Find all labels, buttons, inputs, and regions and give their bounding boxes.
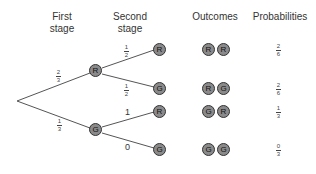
node-label: R [93,67,99,75]
denominator: 3 [58,126,61,132]
outcome-2-b: G [217,82,230,95]
header-outcomes: Outcomes [190,11,240,23]
probability-4: 0 3 [276,143,281,157]
node-label: G [156,146,162,154]
probability-3: 1 3 [276,105,281,119]
denominator: 6 [277,90,280,96]
numerator: 1 [277,105,280,111]
node-label: G [220,85,226,93]
numerator: 0 [277,143,280,149]
node-second-r-2: R [153,105,166,118]
denominator: 2 [125,52,128,58]
node-label: G [220,146,226,154]
outcome-2-a: R [202,82,215,95]
outcome-3-b: R [217,105,230,118]
node-label: R [206,46,212,54]
numerator: 2 [57,69,60,75]
branch-prob-first-g: 1 3 [57,118,62,132]
probability-2: 2 6 [276,82,281,96]
header-probabilities: Probabilities [246,11,314,23]
branch-prob-rg: 1 2 [124,83,129,97]
denominator: 3 [277,151,280,157]
denominator: 6 [277,51,280,57]
node-second-g-2: G [153,143,166,156]
numerator: 2 [277,43,280,49]
node-label: G [92,126,98,134]
branch-prob-first-r: 2 3 [56,69,61,83]
node-label: R [221,46,227,54]
outcome-3-a: G [202,105,215,118]
node-label: R [206,85,212,93]
numerator: 1 [125,83,128,89]
node-label: R [221,108,227,116]
node-label: G [205,146,211,154]
node-label: G [205,108,211,116]
header-first-stage-line1: First [42,11,82,23]
node-second-r-1: R [153,43,166,56]
denominator: 3 [57,77,60,83]
node-label: G [156,85,162,93]
header-second-stage: Second stage [105,11,155,35]
numerator: 2 [277,82,280,88]
node-first-r: R [89,64,102,77]
branch-prob-rr: 1 2 [124,44,129,58]
outcome-4-a: G [202,143,215,156]
denominator: 3 [277,113,280,119]
branch-prob-gr: 1 [125,107,130,117]
outcome-4-b: G [217,143,230,156]
outcome-1-a: R [202,43,215,56]
header-first-stage-line2: stage [42,23,82,35]
branch-prob-gg: 0 [125,142,130,152]
numerator: 1 [125,44,128,50]
header-second-stage-line2: stage [105,23,155,35]
node-second-g-1: G [153,82,166,95]
denominator: 2 [125,91,128,97]
outcome-1-b: R [217,43,230,56]
probability-1: 2 6 [276,43,281,57]
node-label: R [157,46,163,54]
numerator: 1 [58,118,61,124]
node-label: R [157,108,163,116]
node-first-g: G [89,123,102,136]
header-second-stage-line1: Second [105,11,155,23]
header-first-stage: First stage [42,11,82,35]
